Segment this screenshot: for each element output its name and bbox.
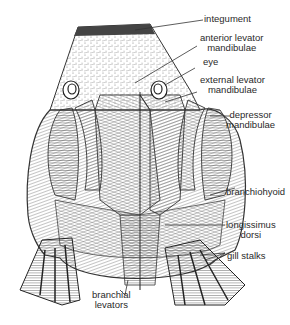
label-anterior-levator-mandibulae: anterior levator mandibulae [200,33,263,53]
anatomical-illustration: integument anterior levator mandibulae e… [0,0,290,325]
label-branchial-levators: branchial levators [92,290,131,310]
label-external-levator-mandibulae: external levator mandibulae [200,75,265,95]
label-depressor-mandibulae: depressor mandibulae [226,110,275,130]
label-branchiohyoid: branchiohyoid [226,187,285,197]
eye-left [63,81,79,99]
figure-caption-cropped [40,318,290,325]
label-longissimus-dorsi: longissimus dorsi [226,220,276,240]
label-eye: eye [203,57,218,67]
gill-stalks-left [20,238,80,305]
eye-right [151,81,167,99]
label-gill-stalks: gill stalks [227,251,266,261]
label-integument: integument [204,14,251,24]
